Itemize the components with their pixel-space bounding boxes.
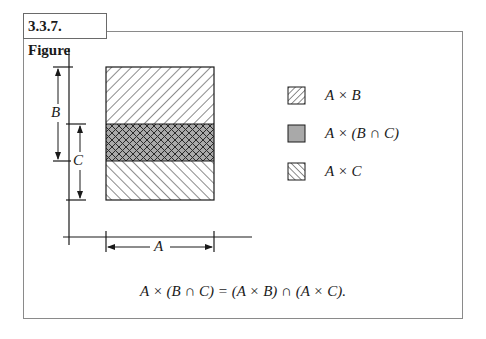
slash-hatch-swatch-icon — [288, 163, 305, 180]
caption-equation: A × (B ∩ C) = (A × B) ∩ (A × C). — [0, 283, 486, 300]
legend-label-a-times-b: A × B — [325, 87, 361, 104]
legend-label-a-times-c: A × C — [325, 163, 362, 180]
label-c: C — [71, 152, 85, 169]
label-b: B — [49, 104, 62, 121]
label-a: A — [152, 238, 165, 255]
legend-swatches — [288, 87, 305, 180]
backslash-hatch-swatch-icon — [288, 87, 305, 104]
region-a-times-b — [106, 67, 214, 124]
region-a-times-b-cap-c — [106, 124, 214, 161]
region-a-times-c — [106, 161, 214, 200]
legend-label-a-times-b-cap-c: A × (B ∩ C) — [325, 125, 399, 142]
product-rectangle — [106, 67, 214, 200]
gray-swatch-icon — [288, 125, 305, 142]
